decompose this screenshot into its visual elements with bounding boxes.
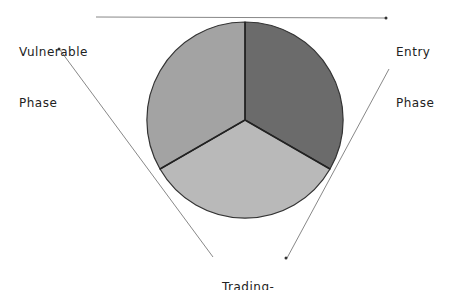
label-line: Vulnerable (19, 44, 88, 61)
arrow-vulnerable-to-entry (96, 17, 388, 20)
label-line: Trading- (222, 279, 282, 290)
label-entry-phase: Entry Phase (396, 10, 434, 129)
label-line: Entry (396, 44, 434, 61)
label-line: Phase (19, 95, 88, 112)
label-vulnerable-phase: Vulnerable Phase (19, 10, 88, 129)
label-trading-up-phase: Trading- Up Phase (222, 245, 282, 290)
label-line: Phase (396, 95, 434, 112)
